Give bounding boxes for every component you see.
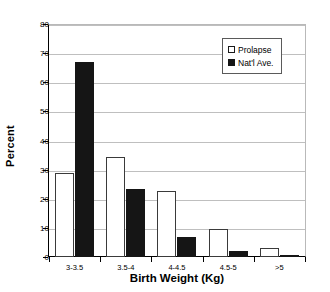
bar-chart: Percent 01020304050607080 3-3.53.5-44-4.… — [0, 0, 330, 292]
legend-label-prolapse: Prolapse — [238, 45, 272, 55]
x-axis-tick-mark — [305, 257, 306, 262]
legend-swatch-prolapse-icon — [228, 46, 235, 53]
x-axis-tick-mark — [203, 257, 204, 262]
legend-item-natl-ave: Nat'l Ave. — [228, 56, 274, 69]
legend-label-natl-ave: Nat'l Ave. — [238, 58, 274, 68]
bar-group — [151, 24, 202, 257]
bar-prolapse — [209, 229, 228, 257]
legend: Prolapse Nat'l Ave. — [222, 38, 282, 74]
y-axis-title: Percent — [0, 0, 20, 292]
legend-item-prolapse: Prolapse — [228, 43, 274, 56]
bar-prolapse — [106, 157, 125, 257]
x-axis-tick-mark — [151, 257, 152, 262]
y-axis-tick-mark — [43, 257, 48, 258]
x-axis-title: Birth Weight (Kg) — [48, 272, 306, 284]
bar-prolapse — [260, 248, 279, 257]
x-axis-tick-mark — [254, 257, 255, 262]
bar-natl-ave — [75, 62, 94, 257]
bar-group — [100, 24, 151, 257]
bar-prolapse — [157, 191, 176, 257]
x-axis-tick-mark — [100, 257, 101, 262]
bar-group — [49, 24, 100, 257]
bar-natl-ave — [177, 237, 196, 257]
bar-natl-ave — [229, 251, 248, 257]
bar-natl-ave — [126, 189, 145, 257]
bar-natl-ave — [280, 255, 299, 257]
legend-swatch-natl-ave-icon — [228, 59, 235, 66]
x-axis-tick-mark — [49, 257, 50, 262]
bar-prolapse — [55, 173, 74, 257]
x-axis-tick-label: >5 — [247, 263, 311, 272]
